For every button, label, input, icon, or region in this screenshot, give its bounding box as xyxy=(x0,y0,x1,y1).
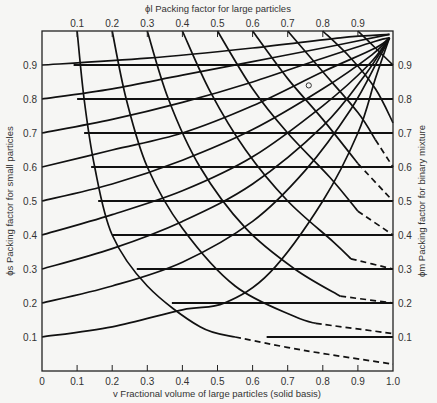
phi-l-curve-0.5 xyxy=(218,31,358,211)
x-tick-label: 0.5 xyxy=(211,376,225,387)
phi-l-curve-dashed-0.5 xyxy=(358,211,393,235)
right-tick-label: 0.9 xyxy=(398,60,412,71)
phi-l-curve-dashed-0.4 xyxy=(351,259,393,269)
x-tick-label: 0.9 xyxy=(351,376,365,387)
left-tick-label: 0.7 xyxy=(23,128,37,139)
x-tick-label: 0 xyxy=(39,376,45,387)
left-tick-label: 0.8 xyxy=(23,94,37,105)
right-tick-label: 0.7 xyxy=(398,128,412,139)
top-tick-label: 0.2 xyxy=(105,18,119,29)
top-tick-label: 0.3 xyxy=(140,18,154,29)
open-circle-marker xyxy=(306,83,311,88)
left-tick-label: 0.1 xyxy=(23,332,37,343)
x-tick-label: 1.0 xyxy=(386,376,400,387)
top-tick-label: 0.8 xyxy=(316,18,330,29)
top-tick-label: 0.6 xyxy=(246,18,260,29)
right-axis-title: ϕm Packing factor for binary mixture xyxy=(416,125,427,277)
x-tick-label: 0.2 xyxy=(105,376,119,387)
right-tick-label: 0.5 xyxy=(398,196,412,207)
x-tick-label: 0.8 xyxy=(316,376,330,387)
bottom-axis-title: v Fractional volume of large particles (… xyxy=(113,388,321,399)
phi-s-curve-0.9 xyxy=(42,34,390,65)
phi-l-curve-dashed-0.2 xyxy=(316,323,393,333)
top-tick-label: 0.7 xyxy=(281,18,295,29)
phi-l-curve-dashed-0.3 xyxy=(340,296,393,303)
phi-l-curve-dashed-0.1 xyxy=(235,337,393,364)
packing-factor-nomograph: 00.10.20.30.40.50.60.70.80.91.00.10.20.3… xyxy=(0,0,437,403)
phi-s-curve-0.2 xyxy=(42,38,390,303)
left-tick-label: 0.4 xyxy=(23,230,37,241)
x-tick-label: 0.1 xyxy=(70,376,84,387)
left-tick-label: 0.3 xyxy=(23,264,37,275)
right-tick-label: 0.2 xyxy=(398,298,412,309)
left-tick-label: 0.5 xyxy=(23,196,37,207)
x-tick-label: 0.7 xyxy=(281,376,295,387)
top-tick-label: 0.9 xyxy=(351,18,365,29)
right-tick-label: 0.1 xyxy=(398,332,412,343)
right-tick-label: 0.6 xyxy=(398,162,412,173)
left-tick-label: 0.2 xyxy=(23,298,37,309)
right-tick-label: 0.8 xyxy=(398,94,412,105)
left-tick-label: 0.6 xyxy=(23,162,37,173)
top-axis-title: ϕl Packing factor for large particles xyxy=(145,3,291,14)
phi-s-curve-0.1 xyxy=(42,38,390,337)
top-tick-label: 0.4 xyxy=(175,18,189,29)
phi-l-curve-dashed-0.7 xyxy=(375,140,393,167)
right-tick-label: 0.4 xyxy=(398,230,412,241)
phi-l-curve-dashed-0.6 xyxy=(358,164,393,201)
left-axis-title: ϕs Packing factor for small particles xyxy=(4,126,15,276)
right-tick-label: 0.3 xyxy=(398,264,412,275)
top-tick-label: 0.5 xyxy=(211,18,225,29)
x-tick-label: 0.6 xyxy=(246,376,260,387)
plot-lines xyxy=(42,31,393,364)
top-tick-label: 0.1 xyxy=(70,18,84,29)
x-tick-label: 0.3 xyxy=(140,376,154,387)
left-tick-label: 0.9 xyxy=(23,60,37,71)
x-tick-label: 0.4 xyxy=(175,376,189,387)
